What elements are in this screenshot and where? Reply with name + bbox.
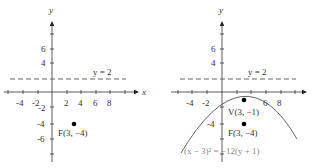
x-tick-label: 8 xyxy=(277,98,282,108)
directrix-label: y = 2 xyxy=(93,67,112,77)
y-axis-label: y xyxy=(218,5,223,15)
focus-label: F(3, −4) xyxy=(228,128,258,138)
parabola-equation: (x − 3)² = −12(y + 1) xyxy=(184,146,260,156)
x-tick-label: 6 xyxy=(93,98,98,108)
y-axis-label: y xyxy=(48,5,53,15)
focus-point xyxy=(242,122,247,127)
x-tick-label: 4 xyxy=(78,98,83,108)
y-tick-label: -4 xyxy=(207,119,215,129)
y-tick-label: 4 xyxy=(211,58,216,68)
directrix-label: y = 2 xyxy=(248,67,267,77)
x-tick-label: 2 xyxy=(64,98,69,108)
x-tick-label: 6 xyxy=(263,98,268,108)
y-tick-label: 6 xyxy=(41,44,46,54)
vertex-label: V(3, −1) xyxy=(228,107,259,117)
y-tick-label: -2 xyxy=(38,103,46,113)
left-graph: y x -4 -2 2 4 6 8 6 4 -2 -4 -6 y = 2 F(3… xyxy=(4,5,146,162)
x-tick-label: -4 xyxy=(186,98,194,108)
y-tick-label: -6 xyxy=(37,134,45,144)
focus-point xyxy=(72,122,77,127)
parabola-figures: y x -4 -2 2 4 6 8 6 4 -2 -4 -6 y = 2 F(3… xyxy=(0,0,314,168)
x-axis-label: x xyxy=(141,87,146,97)
x-tick-label: 8 xyxy=(107,98,112,108)
focus-label: F(3, −4) xyxy=(58,128,88,138)
y-tick-label: -4 xyxy=(37,119,45,129)
x-tick-label: -4 xyxy=(16,98,24,108)
x-tick-label: -2 xyxy=(202,98,210,108)
right-graph: y -4 -2 6 8 6 4 -4 y = 2 V(3, −1) F(3, −… xyxy=(171,5,306,162)
vertex-point xyxy=(242,98,247,103)
y-tick-label: 4 xyxy=(41,58,46,68)
y-tick-label: 6 xyxy=(211,44,216,54)
